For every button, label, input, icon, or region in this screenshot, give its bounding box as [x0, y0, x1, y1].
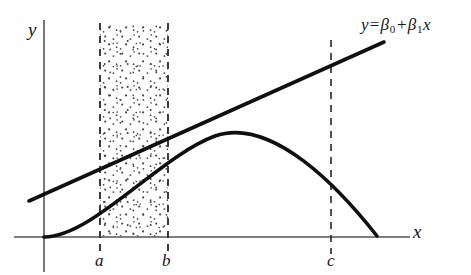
equation-x-variable: x	[423, 15, 431, 34]
equation-beta0-subscript: 0	[389, 23, 396, 35]
tick-label-a: a	[95, 252, 104, 269]
figure-canvas	[0, 0, 471, 275]
regression-equation-label: y=β0+β1x	[361, 16, 431, 35]
equation-beta0: β	[381, 15, 390, 34]
equation-lhs: y	[361, 15, 369, 34]
regression-figure: y x a b c y=β0+β1x	[0, 0, 471, 275]
y-axis-label: y	[28, 20, 36, 39]
equation-equals: =	[369, 15, 381, 34]
x-axis-label: x	[413, 222, 421, 241]
equation-plus: +	[396, 15, 408, 34]
tick-label-c: c	[327, 252, 335, 269]
tick-label-b: b	[162, 252, 171, 269]
true-response-curve	[44, 133, 377, 237]
